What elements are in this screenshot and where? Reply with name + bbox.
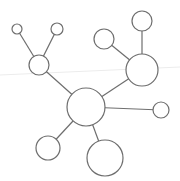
node-hub	[67, 88, 105, 126]
node-top-left-small	[12, 24, 22, 34]
node-right-upper	[126, 54, 158, 86]
node-bottom	[87, 140, 123, 176]
node-top-mid	[94, 29, 114, 49]
node-left-mid	[29, 55, 49, 75]
node-top-left	[51, 23, 63, 35]
nodes-group	[12, 11, 169, 176]
network-diagram	[0, 0, 180, 181]
node-bottom-left	[36, 136, 60, 160]
node-top-right	[132, 11, 152, 31]
node-right-small	[153, 102, 169, 118]
